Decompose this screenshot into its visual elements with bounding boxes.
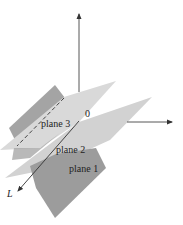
plane1-label: plane 1 bbox=[69, 163, 98, 174]
origin-label: 0 bbox=[85, 108, 90, 119]
line-L-label: L bbox=[6, 188, 13, 199]
plane2-label: plane 2 bbox=[56, 144, 85, 155]
plane3-label: plane 3 bbox=[41, 118, 70, 129]
three-planes-diagram: 0 plane 3 plane 2 plane 1 L bbox=[0, 0, 183, 225]
